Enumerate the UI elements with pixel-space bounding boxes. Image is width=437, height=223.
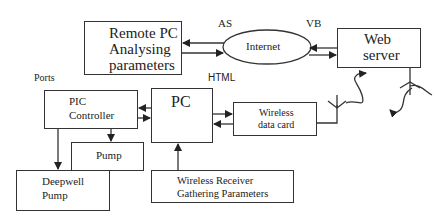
pump-label: Pump bbox=[96, 149, 122, 161]
deepwell-pump-box: Deepwell Pump bbox=[16, 170, 110, 211]
remote-pc-label-2: Analysing bbox=[109, 41, 171, 58]
pc-label: PC bbox=[171, 93, 191, 111]
remote-pc-label-3: parameters bbox=[109, 57, 175, 74]
wireless-receiver-label-1: Wireless Receiver bbox=[177, 175, 253, 187]
wireless-data-card-label-1: Wireless bbox=[259, 107, 294, 118]
wireless-data-card-box: Wireless data card bbox=[233, 102, 317, 136]
web-server-box: Web server bbox=[337, 28, 421, 68]
wireless-receiver-box: Wireless Receiver Gathering Parameters bbox=[151, 170, 294, 203]
pic-controller-label-1: PIC bbox=[69, 95, 86, 107]
as-annotation: AS bbox=[218, 17, 232, 29]
deepwell-pump-label-1: Deepwell bbox=[42, 175, 84, 187]
web-server-label-2: server bbox=[363, 47, 400, 64]
pic-controller-box: PIC Controller bbox=[44, 90, 138, 129]
antenna-icon-left bbox=[328, 95, 346, 108]
remote-pc-box: Remote PC Analysing parameters bbox=[84, 21, 182, 75]
vb-annotation: VB bbox=[306, 17, 321, 29]
deepwell-pump-label-2: Pump bbox=[42, 189, 68, 201]
wireless-receiver-label-2: Gathering Parameters bbox=[177, 188, 268, 200]
pc-box: PC bbox=[151, 88, 213, 143]
pic-controller-label-2: Controller bbox=[69, 109, 114, 121]
remote-pc-label-1: Remote PC bbox=[109, 25, 178, 42]
web-server-label-1: Web bbox=[364, 31, 391, 48]
internet-label: Internet bbox=[246, 40, 280, 52]
wireless-data-card-label-2: data card bbox=[258, 119, 294, 130]
ports-annotation: Ports bbox=[34, 72, 55, 83]
pump-box: Pump bbox=[71, 142, 144, 171]
html-annotation: HTML bbox=[208, 72, 235, 83]
